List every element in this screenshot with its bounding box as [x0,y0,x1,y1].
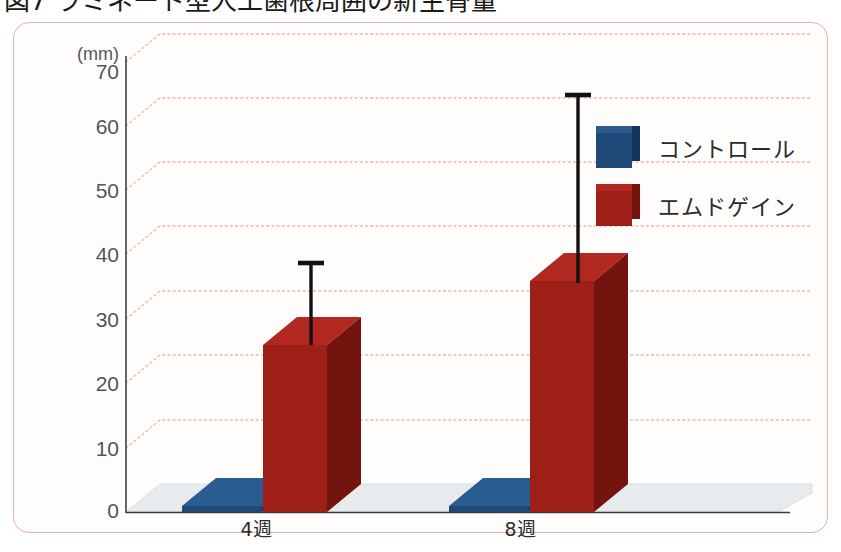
chart-plot-area: (mm) 70 60 50 40 30 20 10 0 [0,0,841,552]
y-tick-30: 30 [96,308,119,331]
x-tick-4weeks: 4週 [240,518,271,540]
legend-label-control: コントロール [658,131,796,163]
legend-swatch-control-icon [596,126,640,168]
x-tick-8weeks: 8週 [504,518,535,540]
legend-swatch-emdogain-icon [596,184,640,226]
legend-item-control[interactable]: コントロール [596,118,821,176]
y-tick-50: 50 [96,179,119,202]
y-axis-tick-labels: (mm) 70 60 50 40 30 20 10 0 [77,44,119,522]
y-tick-20: 20 [96,372,119,395]
legend-item-emdogain[interactable]: エムドゲイン [596,176,821,234]
chart-legend: コントロール エムドゲイン [596,118,821,234]
y-tick-60: 60 [96,115,119,138]
y-tick-40: 40 [96,243,119,266]
y-tick-0: 0 [107,499,119,522]
y-tick-70: 70 [96,60,119,83]
x-axis-tick-labels: 4週 8週 [240,518,535,540]
legend-label-emdogain: エムドゲイン [658,189,796,221]
gridlines [126,34,812,448]
bar-emdogain-8weeks[interactable] [530,253,628,512]
y-tick-10: 10 [96,437,119,460]
bar-emdogain-4weeks[interactable] [263,317,361,512]
